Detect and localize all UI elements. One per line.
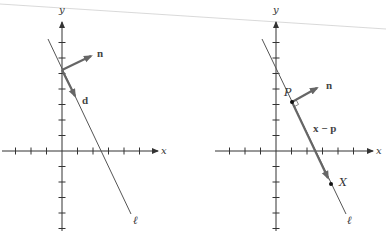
right-line-label: ℓ — [347, 214, 352, 227]
left-figure: x y ℓ n d — [2, 4, 167, 231]
point-x — [329, 182, 333, 186]
left-vector-n — [62, 56, 91, 70]
left-x-label: x — [161, 145, 167, 156]
top-rule — [0, 4, 386, 29]
right-vector-x-minus-p-label: x − p — [313, 122, 336, 134]
right-y-label: y — [272, 4, 279, 15]
right-x-label: x — [376, 145, 382, 156]
left-line-l — [48, 39, 131, 214]
left-line-label: ℓ — [133, 214, 138, 227]
left-axes: x y — [2, 4, 167, 231]
right-figure: x y ℓ x − p n P X — [215, 4, 382, 231]
right-vector-n-label: n — [326, 79, 332, 91]
diagram-canvas: x y ℓ n d x y ℓ x − p n P X — [0, 0, 386, 238]
left-vector-d-label: d — [82, 94, 88, 106]
left-ticks — [16, 43, 140, 229]
left-vector-d — [62, 70, 75, 96]
right-vector-n — [292, 88, 317, 102]
left-y-label: y — [58, 4, 65, 15]
right-vector-x-minus-p — [292, 102, 328, 178]
point-p-label: P — [283, 86, 292, 99]
point-p — [290, 100, 294, 104]
point-x-label: X — [338, 176, 348, 189]
left-vector-n-label: n — [97, 47, 103, 59]
right-ticks — [230, 43, 354, 229]
